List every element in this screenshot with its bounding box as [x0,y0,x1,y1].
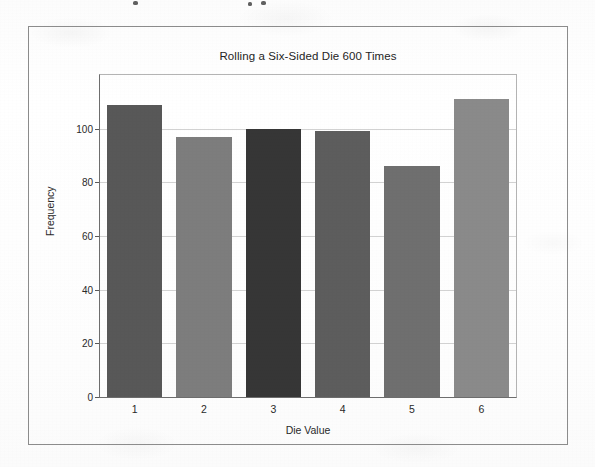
y-tick-label-0: 0 [53,392,93,403]
bar-2 [176,137,231,397]
y-tick-label-40: 40 [53,284,93,295]
bar-1 [107,105,162,397]
bar-6 [454,99,509,397]
x-tick-label-2: 2 [184,403,224,415]
y-tick-mark-80 [95,182,99,183]
scan-speck [248,2,252,6]
x-tick-label-5: 5 [392,403,432,415]
y-tick-mark-40 [95,290,99,291]
y-tick-label-100: 100 [53,123,93,134]
bar-4 [315,131,370,397]
bar-series [100,75,516,397]
y-axis-label: Frequency [44,186,56,236]
y-tick-mark-20 [95,343,99,344]
bar-3 [246,129,301,397]
scan-speck [261,1,266,5]
bar-5 [384,166,439,397]
y-tick-label-20: 20 [53,338,93,349]
scan-speck [133,1,138,5]
y-tick-mark-60 [95,236,99,237]
y-tick-mark-0 [95,397,99,398]
x-tick-label-1: 1 [115,403,155,415]
x-tick-label-4: 4 [323,403,363,415]
x-tick-label-6: 6 [461,403,501,415]
y-tick-mark-100 [95,129,99,130]
plot-area [99,74,517,398]
x-tick-label-3: 3 [253,403,293,415]
chart-title: Rolling a Six-Sided Die 600 Times [99,50,517,62]
x-axis-label: Die Value [99,424,517,436]
y-tick-label-60: 60 [53,231,93,242]
y-tick-label-80: 80 [53,177,93,188]
